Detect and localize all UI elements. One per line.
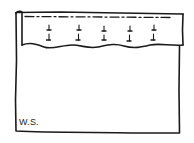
hem-top-edge (16, 12, 183, 14)
hem-wavy-edge (22, 44, 183, 48)
fabric-panel-outline (16, 13, 180, 133)
pin-2 (76, 25, 81, 40)
hem-right-edge (183, 14, 184, 45)
pin-1 (47, 25, 52, 40)
wrong-side-label: W.S. (19, 117, 39, 127)
stitch-line (25, 17, 172, 18)
pin-3 (102, 26, 106, 40)
pin-4 (127, 26, 132, 41)
pin-5 (151, 25, 156, 40)
